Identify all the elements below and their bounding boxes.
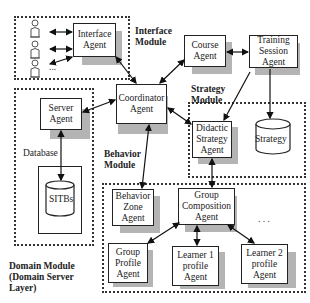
didactic-strategy-agent[interactable]: Didactic Strategy Agent — [192, 121, 232, 158]
group-composition-agent[interactable]: Group Composition Agent — [178, 188, 235, 225]
learner2-profile-agent[interactable]: Learner 2 profile Agent — [241, 244, 288, 284]
learners-ellipsis: . . . — [258, 214, 270, 224]
behavior-zone-agent[interactable]: Behavior Zone Agent — [112, 189, 154, 226]
group-profile-agent[interactable]: Group Profile Agent — [108, 243, 148, 283]
learner1-profile-agent[interactable]: Learner 1 profile Agent — [172, 246, 219, 286]
course-agent[interactable]: Course Agent — [184, 35, 226, 67]
interface-module-label: Interface Module — [135, 26, 172, 48]
domain-module-label: Domain Module (Domain Server Layer) — [9, 261, 75, 294]
server-agent[interactable]: Server Agent — [40, 98, 82, 130]
behavior-module-label: Behavior Module — [104, 149, 141, 171]
users-ellipsis: ... — [49, 62, 56, 72]
database-label: Database — [23, 148, 58, 158]
coordinator-agent[interactable]: Coordinator Agent — [116, 84, 167, 124]
interface-agent[interactable]: Interface Agent — [73, 23, 116, 57]
training-session-agent[interactable]: Training Session Agent — [249, 35, 298, 68]
strategy-db-label: Strategy — [255, 134, 287, 144]
sitbs-label: SITBs — [49, 194, 73, 204]
user-figure-icon — [28, 18, 42, 38]
user-figure-icon — [28, 58, 42, 78]
strategy-module-label: Strategy Module — [191, 84, 225, 106]
user-figure-icon — [28, 39, 42, 59]
